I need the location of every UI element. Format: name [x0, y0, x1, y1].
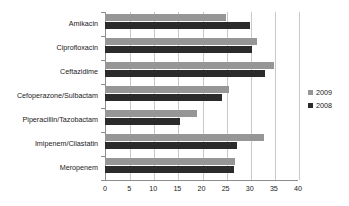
- bar-2008: [105, 46, 252, 53]
- legend-item-2008[interactable]: 2008: [308, 99, 332, 112]
- legend-label: 2008: [316, 101, 332, 110]
- category-label: Meropenem: [60, 163, 98, 172]
- x-tick-label: 20: [192, 184, 212, 193]
- bar-2009: [105, 38, 257, 45]
- bar-2008: [105, 22, 250, 29]
- legend-label: 2009: [316, 88, 332, 97]
- bar-2009: [105, 134, 264, 141]
- x-tick-label: 35: [264, 184, 284, 193]
- legend-swatch-icon: [308, 90, 313, 95]
- category-label: Amikacin: [69, 19, 98, 28]
- bar-group: [0, 36, 349, 60]
- bar-2009: [105, 14, 226, 21]
- bar-2009: [105, 86, 229, 93]
- legend: 20092008: [308, 86, 332, 112]
- bar-2008: [105, 70, 265, 77]
- legend-item-2009[interactable]: 2009: [308, 86, 332, 99]
- x-tick-label: 15: [167, 184, 187, 193]
- x-tick-label: 5: [119, 184, 139, 193]
- bar-chart: AmikacinCiprofloxacinCeftazidimeCefopera…: [0, 0, 349, 206]
- bar-group: [0, 156, 349, 180]
- x-tick-label: 40: [288, 184, 308, 193]
- bar-2008: [105, 166, 234, 173]
- x-tick-label: 25: [216, 184, 236, 193]
- y-tick: [101, 180, 105, 181]
- legend-swatch-icon: [308, 103, 313, 108]
- bar-2008: [105, 118, 180, 125]
- x-tick-label: 10: [143, 184, 163, 193]
- bar-2008: [105, 94, 222, 101]
- x-tick-label: 0: [95, 184, 115, 193]
- bar-2009: [105, 62, 274, 69]
- bar-2008: [105, 142, 237, 149]
- bar-group: [0, 12, 349, 36]
- category-label: Ciprofloxacin: [56, 43, 98, 52]
- category-label: Piperacillin/Tazobactam: [22, 115, 98, 124]
- x-tick-label: 30: [240, 184, 260, 193]
- bar-2009: [105, 110, 197, 117]
- category-label: Cefoperazone/Sulbactam: [17, 91, 98, 100]
- bar-group: [0, 60, 349, 84]
- bar-2009: [105, 158, 235, 165]
- x-axis-line: [105, 180, 298, 181]
- category-label: Imipenem/Cilastatin: [35, 139, 98, 148]
- category-label: Ceftazidime: [60, 67, 98, 76]
